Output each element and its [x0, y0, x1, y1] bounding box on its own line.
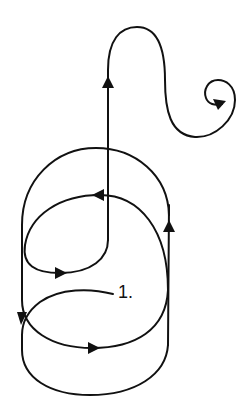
trajectory-diagram: [0, 0, 250, 419]
arrow-up-icon: [163, 220, 175, 232]
arrow-up-icon: [102, 76, 114, 88]
path-outer-top-arc: [22, 148, 169, 348]
arrow-right-icon: [55, 267, 67, 279]
start-label: 1.: [118, 282, 133, 303]
arrow-left-icon: [92, 189, 104, 201]
arrow-right-icon: [88, 342, 100, 354]
path-central-vertical: [108, 27, 235, 240]
path-start-arc: [22, 290, 168, 395]
